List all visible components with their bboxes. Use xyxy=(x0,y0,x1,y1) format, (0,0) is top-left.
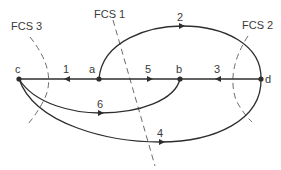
cutset-fcs1-label: FCS 1 xyxy=(94,8,125,20)
edge-2-arrowhead-icon xyxy=(179,23,185,29)
cutset-fcs3-label: FCS 3 xyxy=(11,20,42,32)
node-c-label: c xyxy=(15,63,21,75)
edge-1-arrowhead-icon xyxy=(64,76,70,82)
edge-2-label: 2 xyxy=(177,11,183,23)
edge-3-label: 3 xyxy=(214,63,220,75)
edge-4 xyxy=(19,79,261,142)
node-a xyxy=(96,76,101,81)
edge-1-label: 1 xyxy=(63,63,69,75)
cutset-fcs2-label: FCS 2 xyxy=(242,19,273,31)
node-a-label: a xyxy=(89,63,96,75)
node-d xyxy=(258,76,263,81)
node-d-label: d xyxy=(265,73,271,85)
edge-6-label: 6 xyxy=(97,98,103,110)
fundamental-cutset-diagram: c a b d 1 2 3 4 5 6 FCS 3 FCS 1 FCS 2 xyxy=(0,0,281,170)
cutset-fcs1-line xyxy=(113,20,155,166)
edge-4-arrowhead-icon xyxy=(159,139,165,145)
edge-6-arrowhead-icon xyxy=(98,110,104,116)
edge-5-label: 5 xyxy=(145,63,151,75)
node-b-label: b xyxy=(176,63,182,75)
edge-5-arrowhead-icon xyxy=(147,76,153,82)
cutset-fcs3-line xyxy=(28,37,49,124)
node-b xyxy=(177,76,182,81)
node-c xyxy=(16,76,21,81)
edge-3-arrowhead-icon xyxy=(215,76,221,82)
edge-4-label: 4 xyxy=(157,127,163,139)
